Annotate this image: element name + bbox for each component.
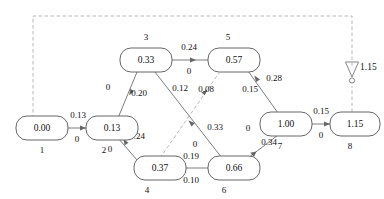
- node-7-value: 1.00: [278, 119, 295, 129]
- node-8[interactable]: 1.15 8: [330, 112, 380, 151]
- edge-3-5-upper-label: 0.24: [181, 42, 197, 52]
- node-6-id: 6: [222, 185, 227, 195]
- edge-5-7: 0.28 0.15: [242, 71, 282, 113]
- edge-4-5-lower-label: 0.12: [172, 83, 188, 93]
- edge-7-8: 0.15 0: [312, 106, 330, 140]
- node-8-value: 1.15: [347, 119, 364, 129]
- graph-svg: 1.15 0.13 0 0 0.20 0 0.24 0.24: [0, 0, 384, 199]
- node-5-value: 0.57: [226, 55, 243, 65]
- edge-3-5-lower-label: 0: [187, 66, 192, 76]
- edge-4-5: 0.08 0.12: [160, 73, 219, 158]
- node-3[interactable]: 0.33 3: [120, 32, 172, 72]
- edge-2-3: 0 0.20: [106, 72, 148, 118]
- node-5[interactable]: 0.57 5: [208, 32, 260, 72]
- edge-6-7-upper-label: 0.34: [261, 137, 277, 147]
- feedback-label: 1.15: [360, 62, 377, 72]
- node-1[interactable]: 0.00 1: [16, 116, 68, 155]
- node-3-value: 0.33: [138, 55, 155, 65]
- edge-5-7-lower-label: 0.15: [242, 84, 258, 94]
- edge-7-8-lower-label: 0: [319, 130, 324, 140]
- circle-icon: [349, 78, 354, 83]
- edge-2-3-lower-label: 0.20: [131, 88, 147, 98]
- feedback-path: [33, 16, 352, 117]
- node-2-value: 0.13: [104, 123, 121, 133]
- node-6[interactable]: 0.66 6: [208, 156, 260, 195]
- node-4[interactable]: 0.37 4: [134, 156, 186, 195]
- node-4-value: 0.37: [152, 163, 169, 173]
- edge-3-5: 0.24 0: [170, 42, 208, 76]
- edge-1-2-arrow-icon: [80, 126, 86, 131]
- edge-3-6-upper-label: 0.33: [207, 122, 223, 132]
- node-2-id: 2: [102, 145, 107, 155]
- node-6-value: 0.66: [226, 163, 243, 173]
- edge-5-7-upper-label: 0.28: [266, 73, 282, 83]
- edge-4-5-upper-label: 0.08: [198, 84, 214, 94]
- edge-1-2-lower-label: 0: [75, 134, 80, 144]
- diagram-canvas: 1.15 0.13 0 0 0.20 0 0.24 0.24: [0, 0, 384, 199]
- node-1-id: 1: [40, 145, 45, 155]
- edge-2-4-line: [118, 138, 137, 160]
- edge-1-2-upper-label: 0.13: [70, 110, 86, 120]
- edge-7-8-arrow-icon: [324, 122, 330, 127]
- feedback-loop: [33, 16, 352, 117]
- node-5-id: 5: [226, 32, 231, 42]
- edge-2-3-upper-label: 0: [106, 82, 111, 92]
- node-7-id: 7: [278, 141, 283, 151]
- edge-3-6-lower-label: 0: [193, 139, 198, 149]
- edge-7-8-upper-label: 0.15: [313, 106, 329, 116]
- node-3-id: 3: [144, 32, 149, 42]
- edge-1-2: 0.13 0: [68, 110, 86, 144]
- edge-6-4-lower-label: 0.10: [183, 175, 199, 185]
- feedback-marker: 1.15: [346, 62, 377, 83]
- node-4-id: 4: [145, 185, 150, 195]
- node-1-value: 0.00: [34, 123, 51, 133]
- edge-6-4-upper-label: 0.19: [183, 151, 199, 161]
- node-8-id: 8: [348, 141, 353, 151]
- edge-2-4-lower-label: 0: [108, 144, 113, 154]
- edge-3-5-arrow-icon: [190, 58, 196, 63]
- edge-6-7-lower-label: 0: [246, 123, 251, 133]
